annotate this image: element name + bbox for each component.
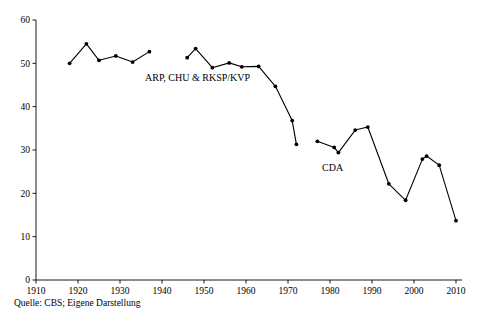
data-point [404,198,408,202]
data-point [85,42,89,46]
data-point [290,119,294,123]
data-point [211,66,215,70]
data-point [366,125,370,129]
chart-container: 0102030405060191019201930194019501960197… [0,0,483,326]
source-note: Quelle: CBS; Eigene Darstellung [14,298,140,308]
data-series [316,125,458,222]
data-point [114,54,118,58]
series-annotation-label: ARP, CHU & RKSP/KVP [145,72,250,83]
y-axis-tick-label: 30 [21,145,31,155]
line-chart: 0102030405060191019201930194019501960197… [0,0,483,326]
data-series [185,47,298,147]
series-line [70,44,150,64]
y-axis-tick-label: 20 [21,189,31,199]
x-axis-tick-label: 1960 [237,286,256,296]
x-axis-tick-label: 1970 [279,286,298,296]
y-axis-tick-label: 10 [21,232,31,242]
data-point [257,64,261,68]
data-point [131,60,135,64]
data-series [68,42,152,65]
y-axis-tick-label: 40 [21,102,31,112]
data-point [316,139,320,143]
data-point [227,61,231,65]
data-point [68,61,72,65]
x-axis-tick-label: 1980 [321,286,340,296]
data-point [274,84,278,88]
data-point [421,157,425,161]
data-point [148,50,152,54]
data-point [185,56,189,60]
x-axis-tick-label: 1920 [69,286,88,296]
x-axis-tick-label: 2000 [405,286,424,296]
y-axis-tick-label: 50 [21,59,31,69]
data-point [295,142,299,146]
x-axis-tick-label: 2010 [447,286,466,296]
x-axis-tick-label: 1990 [363,286,382,296]
data-point [437,163,441,167]
data-point [240,65,244,69]
data-point [97,58,101,62]
data-point [454,219,458,223]
data-point [337,151,341,155]
series-line [317,127,456,221]
y-axis-tick-label: 60 [21,15,31,25]
y-axis-tick-label: 0 [25,275,30,285]
x-axis-tick-label: 1930 [111,286,130,296]
data-point [425,154,429,158]
data-point [387,182,391,186]
series-annotation-label: CDA [322,162,344,173]
data-point [194,47,198,51]
data-point [353,128,357,132]
data-point [332,146,336,150]
series-line [187,49,296,145]
x-axis-tick-label: 1950 [195,286,214,296]
x-axis-tick-label: 1940 [153,286,172,296]
x-axis-tick-label: 1910 [27,286,46,296]
